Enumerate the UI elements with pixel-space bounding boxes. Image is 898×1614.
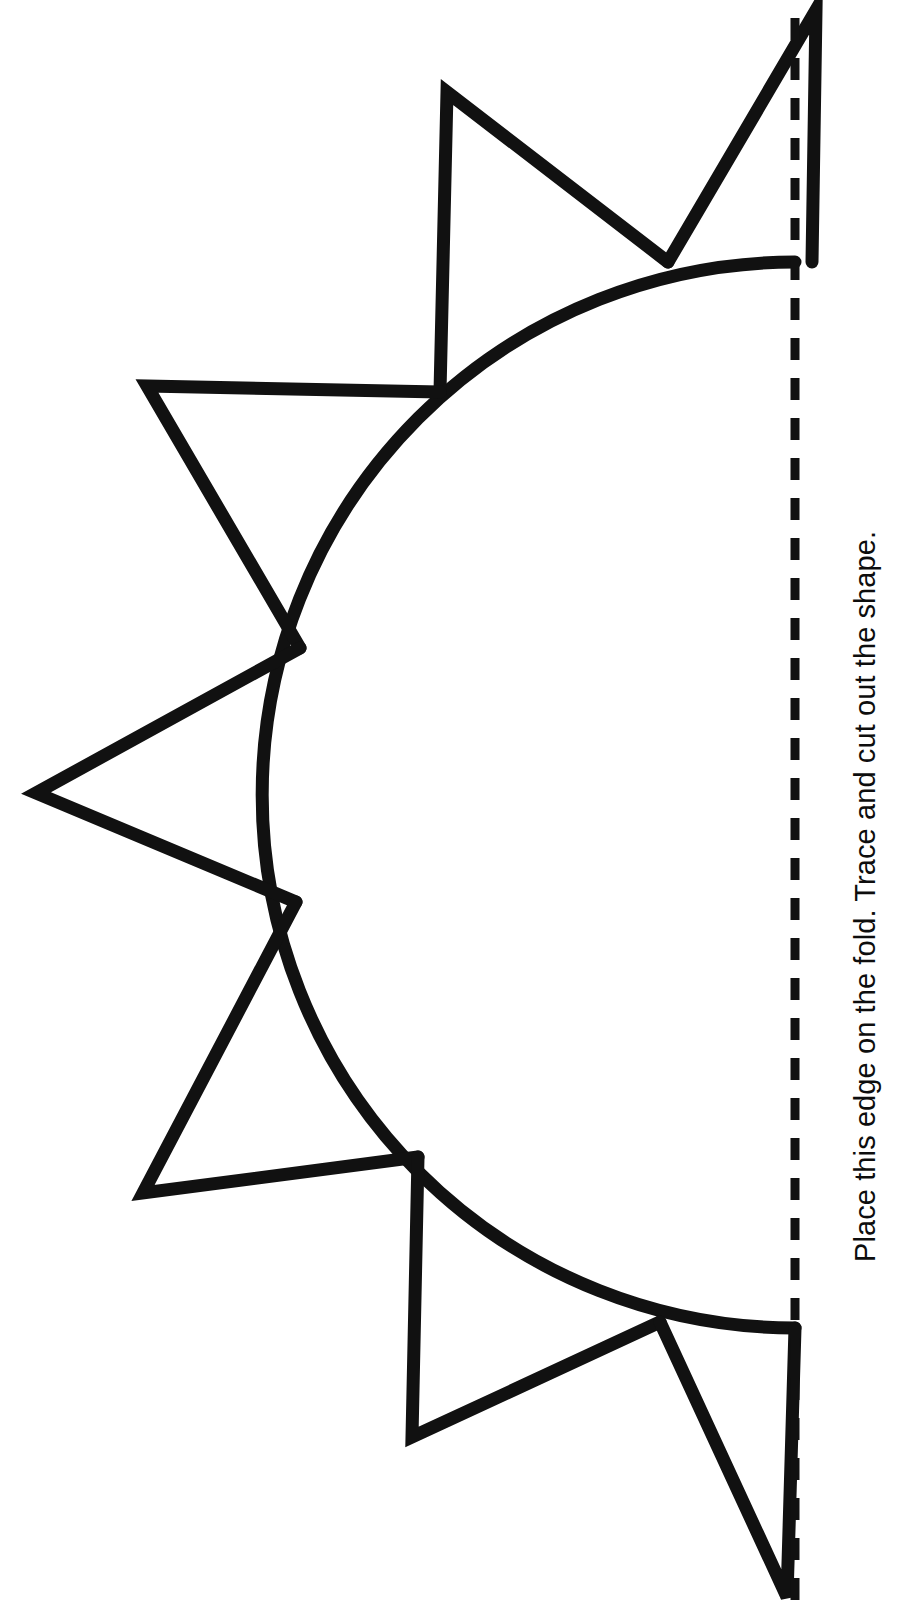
bottom-fold-ray-triangle <box>660 1322 795 1597</box>
sun-shape-group <box>36 10 816 1597</box>
page-canvas: Place this edge on the fold. Trace and c… <box>0 0 898 1614</box>
fold-instruction-text: Place this edge on the fold. Trace and c… <box>851 531 880 1262</box>
sun-template-artwork <box>0 0 898 1614</box>
upper-ray-triangle <box>440 92 668 392</box>
sun-rays-group <box>36 10 816 1597</box>
